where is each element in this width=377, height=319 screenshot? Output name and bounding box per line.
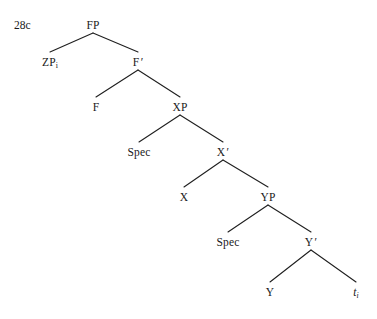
tree-branch-ybar-trace [311, 250, 356, 282]
tree-node-f: F [93, 102, 100, 114]
tree-node-fbar-prime: ′ [139, 56, 143, 68]
tree-node-f-text: F [93, 101, 100, 113]
tree-branch-xbar-yp [223, 160, 268, 187]
tree-node-fp: FP [87, 20, 100, 32]
tree-node-spec-x-text: Spec [128, 146, 151, 158]
tree-branch-yp-spec [228, 205, 268, 232]
tree-node-xbar: X′ [217, 147, 229, 159]
tree-node-ybar: Y′ [305, 237, 317, 249]
tree-diagram-figure: 28c FPZPiF′FXPSpecX′XYPSpecY′Yti [0, 0, 377, 319]
tree-node-y-text: Y [266, 286, 274, 298]
tree-node-xp: XP [173, 102, 188, 114]
tree-node-zp: ZPi [42, 57, 58, 69]
tree-branch-xp-xbar [180, 115, 223, 142]
tree-node-x-text: X [180, 191, 188, 203]
tree-node-spec-y-text: Spec [217, 236, 240, 248]
tree-branch-xbar-x [184, 160, 223, 187]
tree-branch-fp-fbar [93, 33, 138, 52]
tree-node-zp-index: i [56, 61, 58, 70]
tree-branch-lines [0, 0, 377, 319]
tree-node-y: Y [266, 287, 274, 299]
tree-branch-fbar-xp [138, 70, 180, 97]
tree-node-xp-text: XP [173, 101, 188, 113]
tree-node-spec-x: Spec [128, 147, 151, 159]
tree-node-x: X [180, 192, 188, 204]
tree-branch-fbar-f [96, 70, 138, 97]
tree-node-xbar-prime: ′ [225, 146, 229, 158]
tree-node-trace: ti [353, 287, 358, 299]
tree-node-zp-text: ZP [42, 56, 56, 68]
tree-node-fbar-text: F [133, 56, 140, 68]
tree-branch-ybar-y [270, 250, 311, 282]
tree-branch-fp-zp [50, 33, 93, 52]
tree-node-ybar-prime: ′ [313, 236, 317, 248]
tree-node-spec-y: Spec [217, 237, 240, 249]
tree-node-fbar: F′ [133, 57, 144, 69]
tree-node-fp-text: FP [87, 19, 100, 31]
tree-node-yp: YP [261, 192, 276, 204]
tree-branch-xp-spec [139, 115, 180, 142]
tree-branch-yp-ybar [268, 205, 311, 232]
tree-node-yp-text: YP [261, 191, 276, 203]
